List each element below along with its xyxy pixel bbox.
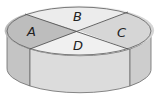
label-a: A [26,24,36,39]
label-b: B [73,9,82,24]
label-d: D [73,38,83,53]
cylinder-svg: A B C D [0,0,163,99]
cylinder-side-front [30,49,130,93]
cylinder-diagram: A B C D [0,0,163,99]
label-c: C [117,25,127,40]
